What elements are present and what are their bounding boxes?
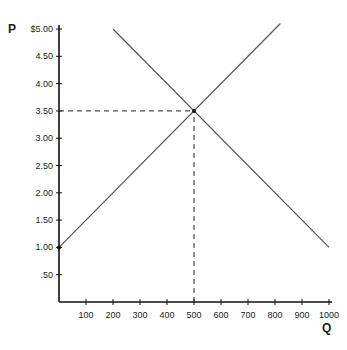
x-tick-label: 1000 <box>319 310 339 320</box>
y-tick-label: 2.00 <box>35 188 53 198</box>
x-tick-label: 400 <box>159 310 174 320</box>
y-tick-label: .50 <box>40 270 53 280</box>
x-tick-label: 900 <box>294 310 309 320</box>
supply-demand-chart: .501.001.502.002.503.003.504.004.50$5.00… <box>0 0 347 350</box>
x-tick-label: 500 <box>186 310 201 320</box>
y-tick-label: 3.50 <box>35 106 53 116</box>
equilibrium-dot <box>192 109 196 113</box>
x-tick-label: 100 <box>78 310 93 320</box>
y-tick-label: 1.50 <box>35 215 53 225</box>
demand-curve <box>113 29 329 247</box>
y-axis-title: P <box>8 22 16 36</box>
x-tick-label: 200 <box>105 310 120 320</box>
y-tick-label: 4.50 <box>35 51 53 61</box>
x-axis-title: Q <box>322 321 331 335</box>
y-tick-label: 4.00 <box>35 79 53 89</box>
y-tick-label: 3.00 <box>35 133 53 143</box>
tick-labels: .501.001.502.002.503.003.504.004.50$5.00… <box>30 24 339 320</box>
x-tick-label: 600 <box>213 310 228 320</box>
series-lines <box>57 24 329 250</box>
y-tick-label: $5.00 <box>30 24 53 34</box>
x-tick-label: 800 <box>267 310 282 320</box>
intercept-dot <box>57 245 61 249</box>
x-tick-label: 700 <box>240 310 255 320</box>
y-tick-label: 2.50 <box>35 161 53 171</box>
dashed-guides <box>59 111 194 302</box>
supply-curve <box>59 24 280 248</box>
x-tick-label: 300 <box>132 310 147 320</box>
y-tick-label: 1.00 <box>35 242 53 252</box>
